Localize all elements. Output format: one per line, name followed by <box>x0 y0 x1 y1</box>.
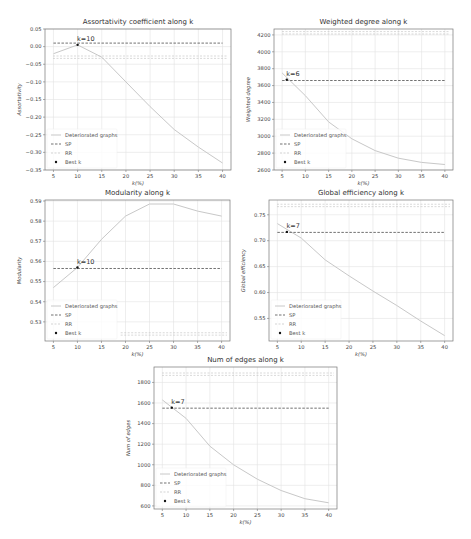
legend-entry: RR <box>294 150 302 156</box>
y-tick-label: 4000 <box>257 49 270 55</box>
y-tick-label: 0.00 <box>30 43 42 49</box>
chart-5: k=75101520253035401800160014001200100080… <box>125 356 337 525</box>
x-tick-label: 30 <box>170 344 177 350</box>
y-tick-label: 3200 <box>257 116 270 122</box>
y-tick-label: 1000 <box>137 462 150 468</box>
legend-entry: SP <box>174 480 180 486</box>
legend-entry: RR <box>65 321 73 327</box>
x-axis-label: k(%) <box>240 519 252 525</box>
x-tick-label: 10 <box>74 344 81 350</box>
y-tick-label: 0.55 <box>30 278 42 284</box>
x-axis-label: k(%) <box>132 180 144 186</box>
chart-4: k=75101520253035400.750.700.650.600.55Gl… <box>240 189 453 357</box>
chart-title: Weighted degree along k <box>320 18 409 26</box>
x-tick-label: 35 <box>302 512 309 518</box>
x-tick-label: 30 <box>394 344 401 350</box>
x-axis-label: k(%) <box>132 351 144 357</box>
x-tick-label: 15 <box>207 512 214 518</box>
y-tick-label: −0.25 <box>26 132 42 138</box>
y-tick-label: −0.15 <box>26 96 42 102</box>
legend: Deteriorated graphsSPRRBest k <box>271 300 342 339</box>
x-tick-label: 40 <box>325 512 332 518</box>
best-k-annotation: k=10 <box>77 35 94 43</box>
chart-title: Num of edges along k <box>207 356 285 364</box>
y-tick-label: 0.58 <box>30 218 42 224</box>
legend: Deteriorated graphsSPRRBest k <box>156 468 227 507</box>
legend-entry: SP <box>289 312 295 318</box>
x-tick-label: 40 <box>442 173 449 179</box>
y-tick-label: −0.35 <box>26 167 42 173</box>
y-tick-label: 600 <box>141 503 151 509</box>
x-tick-label: 25 <box>147 173 154 179</box>
x-tick-label: 5 <box>161 512 164 518</box>
x-tick-label: 35 <box>417 344 424 350</box>
legend: Deteriorated graphsSPRRBest k <box>276 129 347 168</box>
legend-entry: SP <box>65 312 71 318</box>
best-k-annotation: k=7 <box>171 398 184 406</box>
x-tick-label: 5 <box>280 173 283 179</box>
legend-entry: Best k <box>65 159 81 165</box>
legend-entry: RR <box>65 150 73 156</box>
y-tick-label: 0.75 <box>254 212 266 218</box>
chart-title: Assortativity coefficient along k <box>83 18 195 26</box>
x-tick-label: 10 <box>183 512 190 518</box>
legend-entry: Deteriorated graphs <box>174 471 227 478</box>
legend-entry: Best k <box>289 330 305 336</box>
x-tick-label: 15 <box>98 344 105 350</box>
x-tick-label: 40 <box>441 344 448 350</box>
y-tick-label: 0.55 <box>254 315 266 321</box>
x-tick-label: 15 <box>322 344 329 350</box>
y-tick-label: −0.20 <box>26 114 42 120</box>
x-tick-label: 40 <box>218 344 225 350</box>
x-tick-label: 25 <box>146 344 153 350</box>
y-tick-label: 0.59 <box>30 198 42 204</box>
y-tick-label: 0.53 <box>30 319 42 325</box>
deteriorated-graphs-line <box>53 204 221 288</box>
y-tick-label: 2800 <box>257 150 270 156</box>
best-k-annotation: k=10 <box>77 258 94 266</box>
y-tick-label: 3400 <box>257 99 270 105</box>
legend: Deteriorated graphsSPRRBest k <box>47 300 118 339</box>
x-tick-label: 20 <box>123 173 130 179</box>
y-tick-label: 1200 <box>137 441 150 447</box>
x-tick-label: 30 <box>171 173 178 179</box>
chart-title: Modularity along k <box>105 189 171 197</box>
y-tick-label: 1800 <box>137 379 150 385</box>
legend-entry: Deteriorated graphs <box>65 132 118 139</box>
y-tick-label: 0.65 <box>254 263 266 269</box>
y-tick-label: 0.54 <box>30 299 42 305</box>
chart-title: Global efficiency along k <box>318 189 405 197</box>
legend-entry: SP <box>65 141 71 147</box>
x-tick-label: 40 <box>219 173 226 179</box>
legend-entry: Deteriorated graphs <box>65 303 118 310</box>
x-tick-label: 20 <box>122 344 129 350</box>
x-tick-label: 20 <box>346 344 353 350</box>
best-k-annotation: k=7 <box>286 222 299 230</box>
best-k-marker <box>171 406 173 408</box>
x-tick-label: 5 <box>276 344 279 350</box>
x-tick-label: 20 <box>230 512 237 518</box>
y-tick-label: 800 <box>141 482 151 488</box>
legend-entry: Best k <box>65 330 81 336</box>
y-tick-label: 0.60 <box>254 289 266 295</box>
legend: Deteriorated graphsSPRRBest k <box>47 129 118 168</box>
x-tick-label: 35 <box>194 344 201 350</box>
y-tick-label: 0.56 <box>30 258 42 264</box>
best-k-marker <box>76 266 78 268</box>
best-k-marker <box>286 231 288 233</box>
legend-entry: RR <box>289 321 297 327</box>
x-tick-label: 10 <box>74 173 81 179</box>
y-axis-label: Num of edges <box>125 420 132 456</box>
y-tick-label: 3800 <box>257 65 270 71</box>
y-tick-label: −0.10 <box>26 79 42 85</box>
best-k-annotation: k=6 <box>286 70 299 78</box>
y-tick-label: 3000 <box>257 133 270 139</box>
x-tick-label: 20 <box>349 173 356 179</box>
legend-entry: Deteriorated graphs <box>294 132 347 139</box>
x-tick-label: 5 <box>52 173 55 179</box>
x-axis-label: k(%) <box>358 180 370 186</box>
chart-1: k=105101520253035400.050.00−0.05−0.10−0.… <box>16 18 231 186</box>
x-tick-label: 25 <box>372 173 379 179</box>
y-tick-label: −0.05 <box>26 61 42 67</box>
legend-entry: SP <box>294 141 300 147</box>
